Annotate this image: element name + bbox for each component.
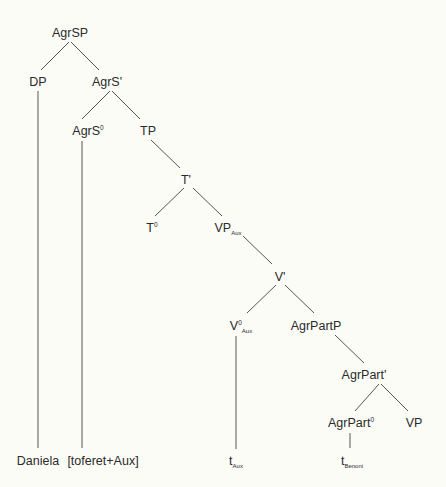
node-vp-aux: VPAux [214, 222, 241, 235]
node-label: AgrSP [52, 26, 88, 40]
node-subscript: Aux [233, 463, 243, 469]
edge-TP-T_bar [151, 140, 180, 168]
edge-V_bar-V0_Aux [247, 285, 276, 313]
node-daniela: Daniela [17, 455, 59, 468]
node-label: T' [181, 173, 191, 187]
edge-AgrS_bar-AgrS0 [82, 91, 110, 119]
node-label: VP [214, 221, 231, 235]
node-label: VP [406, 416, 423, 430]
node-agrs-bar: AgrS' [92, 76, 122, 89]
node-agrpart-bar: AgrPart' [342, 369, 387, 382]
node-agrpart0: AgrPart0 [328, 417, 374, 430]
node-superscript: 0 [238, 319, 242, 326]
node-tp: TP [140, 125, 156, 138]
edge-T_bar-VP_Aux [193, 188, 222, 216]
node-label: AgrPart [328, 416, 370, 430]
node-superscript: 0 [370, 416, 374, 423]
node-t-benoni: tBenoni [341, 455, 363, 468]
node-superscript: 0 [100, 124, 104, 131]
node-label: AgrS [72, 124, 100, 138]
node-t-aux: tAux [229, 455, 243, 468]
node-superscript: 0 [154, 221, 158, 228]
edge-AgrPart_bar-VP [381, 384, 408, 411]
edge-VP_Aux-V_bar [243, 236, 272, 264]
node-v-bar: V' [275, 271, 286, 284]
node-t-bar: T' [181, 174, 191, 187]
edge-T_bar-T0 [155, 188, 184, 216]
node-subscript: Aux [231, 230, 241, 236]
node-label: T [146, 221, 154, 235]
node-agrpartp: AgrPartP [291, 320, 342, 333]
node-label: AgrPartP [291, 319, 342, 333]
tree-edges [0, 0, 446, 487]
node-label: V' [275, 270, 286, 284]
edge-AgrPartP-AgrPart_bar [335, 335, 364, 363]
node-vp: VP [406, 417, 423, 430]
node-label: AgrS' [92, 75, 122, 89]
edge-AgrPart_bar-AgrPart0 [355, 384, 379, 411]
edge-AgrSP-DP [41, 42, 69, 70]
node-label: TP [140, 124, 156, 138]
edge-AgrSP-AgrS_bar [71, 42, 99, 70]
node-label: DP [29, 75, 46, 89]
edge-V_bar-AgrPartP [285, 285, 314, 313]
node-t0: T0 [146, 222, 157, 235]
node-subscript: Aux [242, 328, 252, 334]
node-label: [toferet+Aux] [67, 454, 138, 468]
node-v0-aux: V0Aux [230, 320, 252, 333]
node-label: AgrPart' [342, 368, 387, 382]
node-agrs0: AgrS0 [72, 125, 103, 138]
node-agrsp: AgrSP [52, 27, 88, 40]
node-dp: DP [29, 76, 46, 89]
edge-AgrS_bar-TP [112, 91, 140, 119]
node-label: Daniela [17, 454, 59, 468]
node-toferet: [toferet+Aux] [67, 455, 138, 468]
node-subscript: Benoni [344, 463, 363, 469]
